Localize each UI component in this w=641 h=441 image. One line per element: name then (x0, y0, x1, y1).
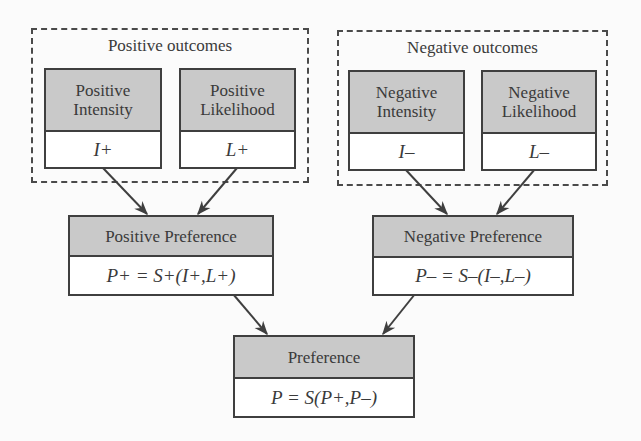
node-label: Intensity (377, 102, 437, 121)
arrow-positive-preference-to-preference (233, 294, 267, 334)
node-label: Positive Preference (105, 227, 237, 246)
node-negative-preference: Negative Preference P– = S–(I–,L–) (372, 215, 574, 296)
node-negative-likelihood: Negative Likelihood L– (481, 70, 597, 171)
node-label: Negative Preference (404, 227, 542, 246)
arrow-positive-intensity-to-positive-preference (103, 168, 147, 214)
node-label: Preference (288, 348, 361, 367)
arrow-negative-intensity-to-negative-preference (405, 169, 447, 214)
node-formula: P– = S–(I–,L–) (374, 258, 572, 294)
node-label: Negative (376, 83, 437, 102)
node-formula: P+ = S+(I+,L+) (70, 257, 272, 294)
node-header: Positive Preference (70, 217, 272, 257)
node-header: Negative Preference (374, 217, 572, 258)
node-header: Negative Intensity (350, 72, 463, 134)
node-label: Likelihood (502, 102, 577, 121)
node-formula: P = S(P+,P–) (235, 379, 413, 416)
arrow-negative-preference-to-preference (383, 294, 415, 334)
node-positive-intensity: Positive Intensity I+ (44, 68, 162, 169)
node-label: Positive (76, 81, 131, 100)
node-preference: Preference P = S(P+,P–) (233, 335, 415, 418)
node-positive-preference: Positive Preference P+ = S+(I+,L+) (68, 215, 274, 296)
node-header: Negative Likelihood (483, 72, 595, 134)
node-positive-likelihood: Positive Likelihood L+ (179, 68, 296, 169)
node-label: Negative (508, 83, 569, 102)
node-symbol: I+ (46, 132, 160, 167)
node-header: Positive Likelihood (181, 70, 294, 132)
node-label: Positive (210, 81, 265, 100)
node-symbol: I– (350, 134, 463, 169)
node-header: Positive Intensity (46, 70, 160, 132)
arrow-positive-likelihood-to-positive-preference (198, 168, 237, 214)
node-symbol: L+ (181, 132, 294, 167)
node-negative-intensity: Negative Intensity I– (348, 70, 465, 171)
node-symbol: L– (483, 134, 595, 169)
node-label: Intensity (73, 100, 133, 119)
node-label: Likelihood (200, 100, 275, 119)
arrow-negative-likelihood-to-negative-preference (497, 169, 535, 214)
node-header: Preference (235, 337, 413, 379)
